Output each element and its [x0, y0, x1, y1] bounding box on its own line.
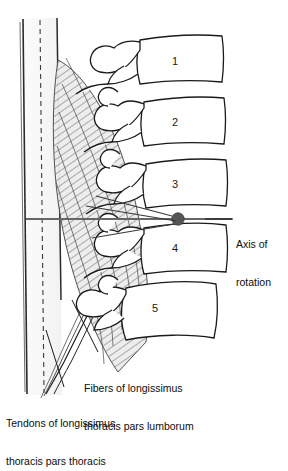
axis-of-rotation-dot [172, 213, 184, 225]
vertebra-number-3: 3 [172, 178, 178, 191]
vertebra-number-4: 4 [172, 242, 178, 255]
tendons-callout-line2: thoracis pars thoracis [6, 455, 115, 468]
tendons-callout-line1: Tendons of longissimus [6, 417, 115, 430]
vertebra-number-5: 5 [152, 302, 158, 315]
tendons-callout-label: Tendons of longissimus thoracis pars tho… [6, 391, 115, 471]
axis-of-rotation-label-line2: rotation [236, 276, 271, 289]
vertebra-number-1: 1 [172, 55, 178, 68]
axis-of-rotation-label: Axis of rotation [236, 212, 271, 314]
axis-of-rotation-label-line1: Axis of [236, 238, 271, 251]
vertebra-number-2: 2 [172, 116, 178, 129]
